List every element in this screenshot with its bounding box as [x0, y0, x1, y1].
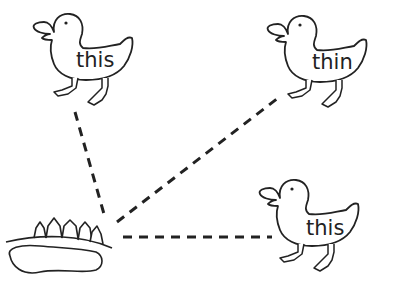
duck-bottom-right[interactable]: this	[260, 180, 359, 271]
duck-top-right[interactable]: thin	[268, 16, 367, 107]
duck-top-left[interactable]: this	[34, 14, 133, 105]
pond-water	[9, 245, 102, 272]
dashed-line-to-duck-top-left	[75, 112, 104, 214]
duck-word: this	[306, 216, 344, 240]
dashed-lines	[75, 98, 278, 237]
worksheet-canvas: this thin this	[0, 0, 396, 288]
dashed-line-to-duck-top-right	[117, 98, 278, 222]
trees-icon	[34, 218, 103, 244]
duck-word: thin	[312, 50, 353, 74]
pond-with-trees[interactable]	[6, 218, 112, 273]
duck-word: this	[76, 48, 114, 72]
